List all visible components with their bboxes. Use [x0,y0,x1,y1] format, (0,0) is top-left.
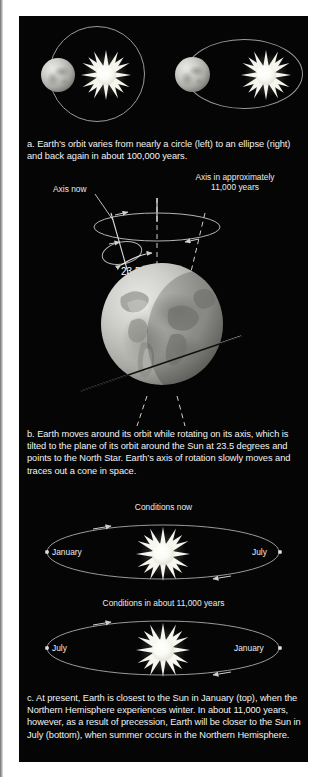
panel-b-caption-line-3: points to the North Star. Earth’s axis o… [27,452,303,464]
label-axis-now: Axis now [53,184,87,194]
label-january-future: January [234,643,264,653]
panel-c: Conditions now January July [19,494,308,690]
panel-b-caption-line-4: traces out a cone in space. [27,465,303,477]
label-january-now: January [52,547,82,557]
panel-a-caption-line-2: and back again in about 100,000 years. [27,150,303,162]
earth-position-dot-july-future [45,646,49,650]
panel-c-caption-line-3: however, as a result of precession, Eart… [27,716,303,728]
sun-star-right [241,50,291,100]
panel-c-caption: c. At present, Earth is closest to the S… [27,692,303,741]
panel-c-caption-line-4: July (bottom), when summer occurs in the… [27,729,303,741]
panel-b-caption-line-1: b. Earth moves around its orbit while ro… [27,428,303,440]
axis-future-lower-dashed [177,396,185,426]
panel-b-caption: b. Earth moves around its orbit while ro… [27,428,303,477]
axis-now-leader-line [95,194,113,220]
panel-c-caption-line-1: c. At present, Earth is closest to the S… [27,692,303,704]
label-axis-future-line-1: Axis in approximately [169,172,301,182]
conditions-future-title: Conditions in about 11,000 years [19,598,308,608]
panel-a [19,16,308,136]
figure-panel: a. Earth’s orbit varies from nearly a ci… [19,16,308,762]
panel-b: Axis now Axis in approximately 11,000 ye… [19,168,308,428]
earth-sphere-right [175,57,210,92]
label-july-future: July [52,643,67,653]
earth-position-dot-july-now [278,550,282,554]
label-axis-future: Axis in approximately 11,000 years [169,172,301,192]
earth-position-dot-january-now [45,550,49,554]
panel-b-caption-line-2: tilted to the plane of its orbit around … [27,440,303,452]
panel-a-caption: a. Earth’s orbit varies from nearly a ci… [27,138,303,162]
axis-now-lower-dashed [137,396,147,426]
label-axis-future-line-2: 11,000 years [169,182,301,192]
sun-star-now [136,527,190,581]
sun-star-future [136,623,190,677]
label-july-now: July [252,547,267,557]
scan-edge-strip [0,0,3,777]
earth-globe-surface [101,263,223,385]
sun-star-left [81,50,131,100]
earth-sphere-left [41,58,75,92]
panel-c-caption-line-2: Northern Hemisphere experiences winter. … [27,704,303,716]
conditions-now-title: Conditions now [19,502,308,512]
panel-a-caption-line-1: a. Earth’s orbit varies from nearly a ci… [27,138,303,150]
earth-position-dot-january-future [278,646,282,650]
